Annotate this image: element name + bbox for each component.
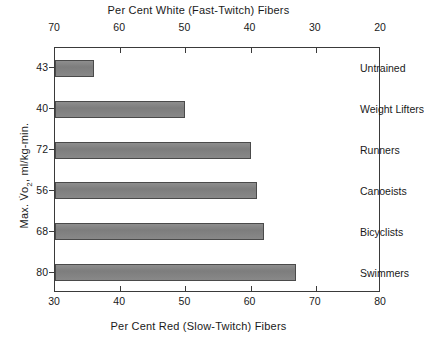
bar <box>55 101 185 118</box>
bottom-tick-mark <box>120 286 121 291</box>
y-axis-value: 72 <box>36 143 48 155</box>
bottom-tick-label: 70 <box>309 295 321 307</box>
bar <box>55 60 94 77</box>
top-axis-title: Per Cent White (Fast-Twitch) Fibers <box>0 4 397 16</box>
y-axis-value: 56 <box>36 184 48 196</box>
bar <box>55 142 251 159</box>
category-label: Canoeists <box>360 185 407 197</box>
top-tick-label: 40 <box>244 21 256 33</box>
y-axis-title: Max. V̇o2, ml/kg-min. <box>18 76 33 276</box>
bar <box>55 182 257 199</box>
y-axis-value: 40 <box>36 102 48 114</box>
top-tick-label: 50 <box>179 21 191 33</box>
bottom-tick-mark <box>185 286 186 291</box>
category-label: Swimmers <box>360 267 409 279</box>
y-axis-value: 80 <box>36 266 48 278</box>
bottom-tick-mark <box>316 286 317 291</box>
bottom-tick-label: 40 <box>113 295 125 307</box>
bar <box>55 264 296 281</box>
top-tick-label: 30 <box>309 21 321 33</box>
category-label: Untrained <box>360 62 406 74</box>
category-label: Bicyclists <box>360 226 403 238</box>
bottom-axis-title: Per Cent Red (Slow-Twitch) Fibers <box>0 320 397 332</box>
y-axis-value: 68 <box>36 225 48 237</box>
top-tick-label: 60 <box>113 21 125 33</box>
top-tick-mark <box>316 48 317 53</box>
bottom-tick-label: 80 <box>374 295 386 307</box>
category-label: Runners <box>360 144 400 156</box>
top-tick-mark <box>185 48 186 53</box>
top-tick-label: 20 <box>374 21 386 33</box>
bar <box>55 223 264 240</box>
plot-area: UntrainedWeight LiftersRunnersCanoeistsB… <box>54 47 380 292</box>
bottom-tick-label: 50 <box>179 295 191 307</box>
top-tick-mark <box>120 48 121 53</box>
bottom-tick-mark <box>251 286 252 291</box>
bottom-tick-label: 60 <box>244 295 256 307</box>
top-tick-label: 70 <box>48 21 60 33</box>
category-label: Weight Lifters <box>360 103 424 115</box>
y-axis-value: 43 <box>36 61 48 73</box>
bottom-tick-label: 30 <box>48 295 60 307</box>
top-tick-mark <box>251 48 252 53</box>
